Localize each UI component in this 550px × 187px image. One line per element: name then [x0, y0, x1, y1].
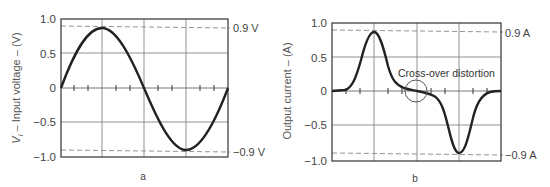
chart-b-ytick-5: −1.0 — [304, 155, 327, 167]
chart-b-ytick-2: 0.5 — [311, 52, 327, 64]
chart-b-ytick-1: 1.0 — [311, 17, 327, 29]
chart-b-ytick-3: 0 — [321, 85, 327, 97]
chart-b-ref-bottom-label: −0.9 A — [505, 149, 537, 161]
chart-b: Cross-over distortion 1.0 0.5 0 −0.5 −1.… — [281, 17, 537, 184]
chart-b-ref-top-label: 0.9 A — [505, 27, 531, 39]
chart-a-ytick-5: −1.0 — [33, 151, 56, 163]
chart-a-ytick-4: −0.5 — [33, 116, 56, 128]
chart-a-ytick-2: 0.5 — [40, 48, 56, 60]
chart-a-ref-top-label: 0.9 V — [233, 22, 259, 34]
chart-a-caption: a — [140, 171, 146, 182]
chart-a: 1.0 0.5 0 −0.5 −1.0 0.9 V −0.9 V Vi – In… — [10, 13, 266, 182]
chart-b-caption: b — [412, 173, 418, 184]
chart-b-ylabel: Output current – (A) — [281, 42, 293, 139]
figure: 1.0 0.5 0 −0.5 −1.0 0.9 V −0.9 V Vi – In… — [0, 0, 550, 187]
chart-a-ytick-1: 1.0 — [40, 13, 56, 25]
chart-a-ylabel: Vi – Input voltage – (V) — [10, 32, 25, 143]
chart-a-sine-curve — [61, 28, 228, 150]
chart-b-ytick-4: −0.5 — [304, 119, 327, 131]
chart-b-reference-lines — [332, 30, 503, 155]
chart-a-ytick-3: 0 — [50, 82, 56, 94]
crossover-annotation: Cross-over distortion — [398, 67, 495, 79]
chart-a-ref-bottom-label: −0.9 V — [233, 146, 266, 158]
chart-b-output-curve — [332, 32, 501, 153]
